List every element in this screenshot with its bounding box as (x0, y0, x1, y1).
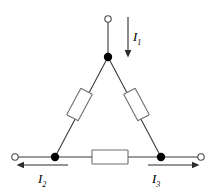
node-top (104, 53, 112, 61)
current-subscript-i1: 1 (137, 38, 141, 47)
current-arrow-i3 (148, 162, 200, 169)
node-bottom-left (51, 153, 59, 161)
current-arrow-i2 (17, 162, 69, 169)
arrow-head-i1 (125, 50, 132, 58)
wire-group (18, 22, 198, 157)
current-label-i1: I1 (133, 30, 141, 47)
resistor-bottom (92, 150, 128, 164)
current-subscript-i3: 3 (156, 180, 160, 189)
node-bottom-right (157, 153, 165, 161)
circuit-canvas (0, 0, 216, 194)
terminal-bottom-right (198, 154, 204, 160)
terminal-bottom-left (12, 154, 18, 160)
resistor-right (124, 88, 150, 121)
current-arrow-i1 (125, 17, 132, 58)
current-label-i3: I3 (152, 172, 160, 189)
resistor-left (67, 88, 93, 121)
arrow-head-i2 (17, 162, 25, 169)
arrow-head-i3 (192, 162, 200, 169)
current-subscript-i2: 2 (42, 180, 46, 189)
junction-node-group (51, 53, 165, 161)
terminal-top (105, 16, 111, 22)
resistor-group (67, 88, 150, 164)
current-label-i2: I2 (38, 172, 46, 189)
circuit-diagram-figure: I1 I2 I3 (0, 0, 216, 194)
